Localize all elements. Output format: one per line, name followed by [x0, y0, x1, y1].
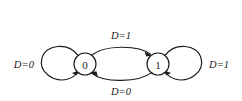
self-loop-1-path [164, 46, 201, 79]
state-diagram-canvas: 0 1 D=0 D=1 D=0 D=1 [0, 0, 242, 101]
state-node-0-label: 0 [82, 59, 88, 71]
transition-0-to-1-group[interactable] [92, 47, 153, 56]
self-loop-0-label: D=0 [13, 59, 35, 70]
state-node-1[interactable]: 1 [147, 53, 169, 75]
self-loop-1-label: D=1 [208, 59, 229, 70]
transition-0-to-1-label: D=1 [110, 30, 131, 41]
transition-0-to-1-path [92, 47, 151, 55]
transition-1-to-0-group[interactable] [91, 71, 152, 80]
transition-1-to-0-label: D=0 [110, 86, 132, 97]
transition-1-to-0-path [92, 73, 152, 81]
state-node-0[interactable]: 0 [74, 53, 96, 75]
state-node-1-label: 1 [155, 59, 161, 71]
self-loop-0-path [41, 46, 78, 79]
state-diagram-container: 0 1 D=0 D=1 D=0 D=1 [0, 0, 242, 101]
